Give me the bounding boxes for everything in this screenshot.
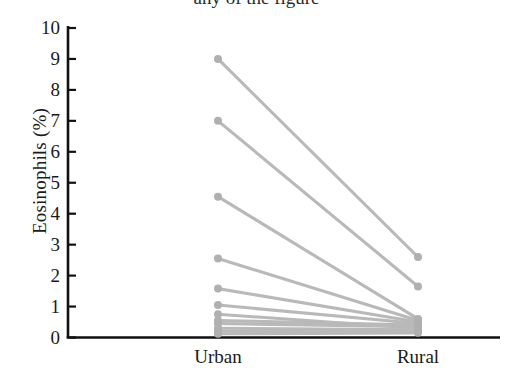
data-point-rural [414,282,422,290]
x-tick-label-urban: Urban [148,347,288,366]
slope-line [218,121,418,287]
data-point-urban [214,320,222,328]
data-point-urban [214,310,222,318]
data-point-urban [214,117,222,125]
data-point-urban [214,301,222,309]
data-point-rural [414,324,422,332]
data-point-urban [214,193,222,201]
data-point-urban [214,285,222,293]
slope-line [218,333,418,334]
data-point-group [214,55,422,338]
slope-line [218,259,418,321]
slope-line [218,59,418,257]
slope-line-group [218,59,418,334]
data-point-urban [214,330,222,338]
figure-panel: any of the figure Eosinophils (%) 109876… [0,0,513,382]
slope-line [218,328,418,330]
data-point-urban [214,55,222,63]
slope-line [218,197,418,319]
data-point-urban [214,255,222,263]
data-point-rural [414,253,422,261]
x-tick-label-rural: Rural [348,347,488,366]
plot-canvas [0,0,513,382]
